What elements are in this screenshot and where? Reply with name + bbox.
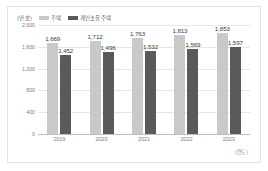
bar[interactable]: 1,597 — [230, 47, 241, 134]
bar-value-label: 1,532 — [143, 43, 158, 50]
bar[interactable]: 1,853 — [217, 33, 228, 134]
x-axis-unit-label: (연도) — [235, 148, 248, 155]
bar-group: 1,7121,496 — [80, 25, 122, 134]
x-tick-2020: 2020 — [80, 136, 122, 146]
y-tick-0: 0 — [32, 131, 35, 137]
bar[interactable]: 1,763 — [132, 38, 143, 134]
bar-group: 1,8531,597 — [208, 25, 250, 134]
y-tick-2000: 2,000 — [22, 22, 35, 28]
bar[interactable]: 1,569 — [187, 49, 198, 135]
bar-value-label: 1,452 — [58, 47, 73, 54]
bar[interactable]: 1,712 — [90, 41, 101, 134]
bar[interactable]: 1,813 — [174, 35, 185, 134]
y-tick-1600: 1,600 — [22, 44, 35, 50]
bar[interactable]: 1,532 — [145, 51, 156, 134]
bar-value-label: 1,597 — [228, 39, 243, 46]
bar-value-label: 1,569 — [185, 41, 200, 48]
gridline-0 — [38, 134, 250, 135]
bar-value-label: 1,813 — [172, 27, 187, 34]
x-axis-ticks: 20192020202120222023 — [38, 136, 250, 146]
x-tick-2021: 2021 — [123, 136, 165, 146]
bar-value-label: 1,853 — [215, 25, 230, 32]
legend-item-individually-owned-housing: 개인소유 주택 — [68, 14, 111, 22]
y-tick-1200: 1,200 — [22, 66, 35, 72]
bar[interactable]: 1,496 — [103, 52, 114, 134]
x-tick-2019: 2019 — [38, 136, 80, 146]
chart-frame: (만 호) 주택 개인소유 주택 2,000 1,600 1,200 800 4… — [7, 6, 261, 163]
x-tick-2023: 2023 — [208, 136, 250, 146]
chart-figure: (만 호) 주택 개인소유 주택 2,000 1,600 1,200 800 4… — [0, 0, 268, 171]
bar-group: 1,8131,569 — [165, 25, 207, 134]
bar-group: 1,7631,532 — [123, 25, 165, 134]
bar-group: 1,6691,452 — [38, 25, 80, 134]
bar[interactable]: 1,669 — [47, 43, 58, 134]
legend-label-housing: 주택 — [51, 14, 61, 22]
bar-value-label: 1,712 — [88, 33, 103, 40]
legend-label-individually-owned-housing: 개인소유 주택 — [80, 14, 111, 22]
y-axis-unit-label: (만 호) — [17, 14, 32, 22]
x-tick-2022: 2022 — [165, 136, 207, 146]
legend-swatch-housing — [39, 16, 49, 20]
bar-value-label: 1,763 — [130, 30, 145, 37]
bar-groups: 1,6691,4521,7121,4961,7631,5321,8131,569… — [38, 25, 250, 134]
bar-value-label: 1,669 — [45, 35, 60, 42]
y-tick-400: 400 — [26, 109, 35, 115]
plot-area: 2,000 1,600 1,200 800 400 0 1,6691,4521,… — [38, 25, 250, 134]
bar-value-label: 1,496 — [101, 44, 116, 51]
bar[interactable]: 1,452 — [60, 55, 71, 134]
y-tick-800: 800 — [26, 87, 35, 93]
legend-item-housing: 주택 — [39, 14, 61, 22]
legend-swatch-individually-owned-housing — [68, 16, 78, 20]
